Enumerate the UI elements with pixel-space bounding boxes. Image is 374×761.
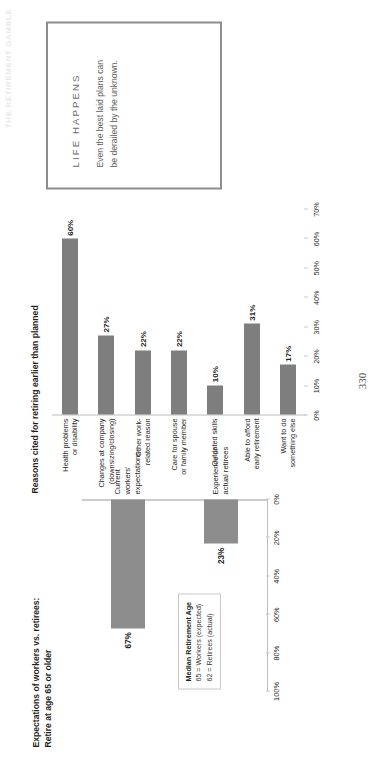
- axis-tick-label: 60%: [272, 607, 281, 622]
- axis-tick-label: 80%: [272, 645, 281, 660]
- axis-tick-label: 30%: [312, 320, 321, 334]
- bar-value-label: 23%: [216, 547, 225, 563]
- bar: 22%: [171, 350, 187, 414]
- bar-value-label: 22%: [175, 331, 184, 347]
- axis-tick-label: 20%: [312, 349, 321, 363]
- axis-tick-mark: [266, 498, 270, 499]
- chart-b-title: Reasons cited for retiring earlier than …: [30, 203, 40, 493]
- axis-tick-mark: [304, 237, 308, 238]
- axis-tick-label: 40%: [312, 290, 321, 304]
- axis-tick-label: 60%: [312, 231, 321, 245]
- page-number: 330: [356, 0, 368, 761]
- chart-b-canvas: 60%Health problemsor disability27%Change…: [52, 203, 332, 493]
- axis-tick-mark: [266, 690, 270, 691]
- chart-b-plot-area: 60%Health problemsor disability27%Change…: [52, 209, 306, 415]
- axis-tick-mark: [304, 385, 308, 386]
- chart-a-annotation-box: Median Retirement Age 65 = Workers (expe…: [178, 593, 221, 689]
- bar-category-label: Care for spouseor family member: [170, 418, 189, 490]
- chart-retire-at-65-block: Expectations of workers vs. retirees: Re…: [30, 499, 330, 747]
- chart-b-x-axis: 0%10%20%30%40%50%60%70%: [308, 209, 332, 415]
- chart-a-x-axis: 0%20%40%60%80%100%: [270, 499, 300, 691]
- book-page: THE RETIREMENT GAMBLE Expectations of wo…: [0, 0, 374, 761]
- axis-tick-mark: [304, 296, 308, 297]
- axis-tick-mark: [304, 414, 308, 415]
- axis-tick-mark: [304, 208, 308, 209]
- axis-tick-label: 70%: [312, 202, 321, 216]
- annotation-heading: Median Retirement Age: [184, 601, 193, 681]
- bar-value-label: 10%: [211, 366, 220, 382]
- bar-category-label: Health problemsor disability: [61, 418, 80, 490]
- chart-a-plot-area: 67%Current workers'expectations23%Experi…: [82, 499, 268, 691]
- axis-tick-label: 100%: [272, 682, 281, 701]
- bar: 31%: [244, 323, 260, 414]
- chart-a-title: Expectations of workers vs. retirees: Re…: [30, 597, 55, 747]
- bar-category-label: Changes at company(downsizing/closing): [97, 418, 116, 490]
- chart-a-title-line2: Retire at age 65 or older: [43, 649, 53, 747]
- bar-category-label: Outdated skills: [211, 418, 220, 490]
- chart-a-title-line1: Expectations of workers vs. retirees:: [31, 597, 41, 747]
- axis-tick-mark: [304, 267, 308, 268]
- bar: 23%: [204, 499, 238, 543]
- axis-tick-label: 0%: [312, 410, 321, 420]
- axis-tick-mark: [266, 652, 270, 653]
- axis-tick-mark: [266, 613, 270, 614]
- bar-value-label: 27%: [102, 316, 111, 332]
- bar: 60%: [62, 238, 78, 414]
- life-happens-callout: LIFE HAPPENS Even the best laid plans ca…: [46, 21, 222, 189]
- annotation-line-1: 65 = Workers (expected): [195, 603, 203, 681]
- bar-value-label: 67%: [124, 632, 133, 648]
- bar-value-label: 22%: [138, 331, 147, 347]
- bar-category-label: Want to dosomething else: [279, 418, 298, 490]
- axis-tick-mark: [266, 536, 270, 537]
- chart-reasons-cited-block: Reasons cited for retiring earlier than …: [30, 203, 340, 493]
- bar: 22%: [135, 350, 151, 414]
- bar-value-label: 17%: [283, 345, 292, 361]
- bar-category-label: Other work-related reason: [133, 418, 152, 490]
- bar-category-label: Able to affordearly retirement: [242, 418, 261, 490]
- bar: 10%: [207, 385, 223, 414]
- bar: 27%: [98, 335, 114, 414]
- bar-value-label: 31%: [247, 304, 256, 320]
- axis-tick-mark: [304, 326, 308, 327]
- bar: 67%: [111, 499, 145, 628]
- callout-heading: LIFE HAPPENS: [70, 43, 81, 167]
- axis-tick-mark: [304, 355, 308, 356]
- running-header: THE RETIREMENT GAMBLE: [4, 8, 13, 128]
- axis-tick-label: 20%: [272, 530, 281, 545]
- axis-tick-label: 40%: [272, 568, 281, 583]
- axis-tick-mark: [266, 575, 270, 576]
- annotation-line-2: 62 = Retirees (actual): [206, 613, 214, 681]
- axis-tick-label: 10%: [312, 378, 321, 392]
- axis-tick-label: 0%: [272, 494, 281, 505]
- bar-value-label: 60%: [66, 219, 75, 235]
- bar: 17%: [280, 364, 296, 414]
- axis-tick-label: 50%: [312, 261, 321, 275]
- chart-a-canvas: 67%Current workers'expectations23%Experi…: [82, 499, 300, 747]
- callout-body: Even the best laid plans can be derailed…: [94, 55, 122, 167]
